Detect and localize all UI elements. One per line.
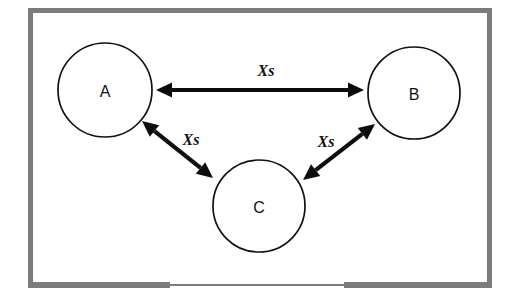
link-label-c-b: Xs bbox=[317, 133, 335, 150]
node-label-c: C bbox=[253, 199, 265, 216]
node-c[interactable]: C bbox=[213, 160, 305, 252]
link-c-b bbox=[303, 124, 375, 180]
diagram-canvas: ABC XsXsXs bbox=[0, 0, 521, 301]
node-label-b: B bbox=[409, 86, 420, 103]
node-a[interactable]: A bbox=[58, 43, 152, 137]
node-link-diagram: ABC XsXsXs bbox=[0, 0, 521, 301]
link-label-a-c: Xs bbox=[182, 131, 200, 148]
link-label-a-b: Xs bbox=[257, 62, 275, 79]
link-a-c bbox=[142, 121, 213, 178]
arrow-head-icon bbox=[348, 83, 364, 98]
arrow-head-icon bbox=[156, 83, 172, 98]
link-a-b bbox=[156, 83, 364, 98]
node-label-a: A bbox=[100, 83, 111, 100]
node-b[interactable]: B bbox=[368, 47, 460, 139]
link-labels-layer: XsXsXs bbox=[182, 62, 335, 150]
